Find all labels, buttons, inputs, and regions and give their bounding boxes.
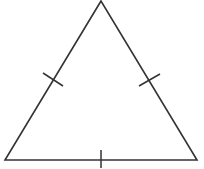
triangle-svg	[0, 0, 204, 169]
triangle-diagram	[0, 0, 204, 169]
congruence-tick-left	[43, 73, 63, 86]
equilateral-triangle	[5, 1, 197, 160]
congruence-tick-right	[139, 74, 160, 86]
